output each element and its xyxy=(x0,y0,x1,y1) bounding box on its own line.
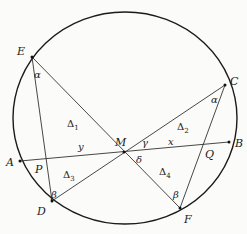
region-label-delta2: Δ2 xyxy=(177,121,189,135)
butterfly-diagram: ECABDFMPQααββγδxyΔ1Δ2Δ3Δ4 xyxy=(0,0,247,234)
circle xyxy=(13,12,237,224)
point-A xyxy=(19,160,22,163)
symbol-label: δ xyxy=(136,154,142,165)
label-Q: Q xyxy=(205,148,214,161)
point-F xyxy=(179,207,182,210)
symbol-label: y xyxy=(77,141,84,152)
symbol-label: α xyxy=(211,94,218,105)
label-C: C xyxy=(230,75,239,88)
symbol-label: γ xyxy=(142,137,148,148)
symbol-label: β xyxy=(50,189,57,200)
point-E xyxy=(31,56,34,59)
symbol-label: x xyxy=(168,136,174,147)
symbol-label: α xyxy=(34,69,41,80)
label-B: B xyxy=(234,137,243,150)
label-P: P xyxy=(34,163,43,176)
label-A: A xyxy=(5,156,14,169)
point-M xyxy=(123,151,126,154)
segment-EF xyxy=(32,57,180,208)
segment-CF xyxy=(180,85,225,208)
label-E: E xyxy=(16,45,25,58)
region-label-delta3: Δ3 xyxy=(63,169,75,183)
symbol-label: β xyxy=(172,189,179,200)
point-C xyxy=(224,84,227,87)
label-M: M xyxy=(114,136,127,149)
label-F: F xyxy=(183,213,192,226)
region-label-delta1: Δ1 xyxy=(67,118,79,132)
labels: ECABDFMPQααββγδxyΔ1Δ2Δ3Δ4 xyxy=(5,45,243,226)
region-label-delta4: Δ4 xyxy=(159,166,171,180)
chords xyxy=(20,57,229,208)
point-B xyxy=(228,141,231,144)
label-D: D xyxy=(36,205,46,218)
